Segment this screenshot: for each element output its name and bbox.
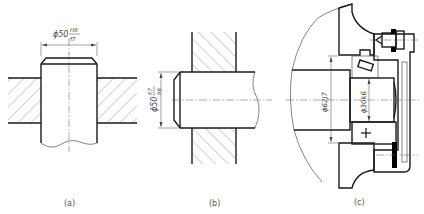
caption-a: (a)	[64, 199, 75, 208]
seal-top	[391, 29, 396, 34]
housing-upper	[339, 4, 374, 55]
panel-b: ϕ50 K7 h6 (b)	[147, 32, 272, 208]
dimension-a-numerator: H8	[70, 27, 78, 33]
bearing-roller	[358, 60, 373, 71]
plate-right-hatch	[97, 78, 137, 123]
panel-a: ϕ50 H8 f7 (a)	[8, 27, 137, 208]
dimension-b-numerator: K7	[147, 87, 153, 95]
dimension-c-inner: ϕ30k6	[360, 90, 368, 113]
technical-drawing: ϕ50 H8 f7 (a) ϕ50 K7 h6 (b)	[0, 0, 424, 214]
dimension-b-prefix: ϕ50	[150, 97, 159, 112]
housing-lower	[339, 143, 374, 188]
plate-left-hatch	[8, 78, 41, 123]
dimension-a-denominator: f7	[70, 36, 76, 42]
caption-b: (b)	[209, 199, 220, 208]
dimension-b-denominator: h6	[156, 88, 162, 95]
caption-c: (c)	[354, 198, 365, 207]
plate-top-hatch	[192, 32, 236, 72]
panel-c: ϕ62J7 ϕ30k6 (c)	[286, 4, 420, 207]
plate-bottom-hatch	[192, 128, 236, 164]
dimension-a-prefix: ϕ50	[53, 30, 68, 39]
bearing-lower	[352, 122, 396, 144]
dimension-c-outer: ϕ62J7	[321, 91, 329, 112]
seal-top-2	[391, 47, 396, 52]
